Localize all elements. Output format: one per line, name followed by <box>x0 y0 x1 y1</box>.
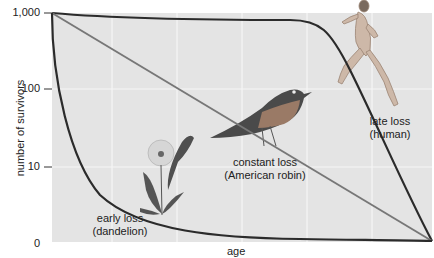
dandelion-icon <box>140 136 194 215</box>
annotation-constant-loss-line2: (American robin) <box>210 169 320 182</box>
annotation-early-loss-line2: (dandelion) <box>80 225 160 238</box>
annotation-late-loss: late loss (human) <box>355 115 425 141</box>
y-tick-0: 0 <box>0 237 40 249</box>
y-tick-1000: 1,000 <box>0 6 40 18</box>
annotation-constant-loss-line1: constant loss <box>210 156 320 169</box>
annotation-late-loss-line2: (human) <box>355 128 425 141</box>
y-axis-label: number of survivors <box>14 58 26 198</box>
y-tick-marks <box>44 13 52 167</box>
running-human-icon <box>338 0 398 106</box>
annotation-late-loss-line1: late loss <box>355 115 425 128</box>
annotation-early-loss: early loss (dandelion) <box>80 212 160 238</box>
x-axis-label: age <box>227 245 245 257</box>
annotation-early-loss-line1: early loss <box>80 212 160 225</box>
annotation-constant-loss: constant loss (American robin) <box>210 156 320 182</box>
